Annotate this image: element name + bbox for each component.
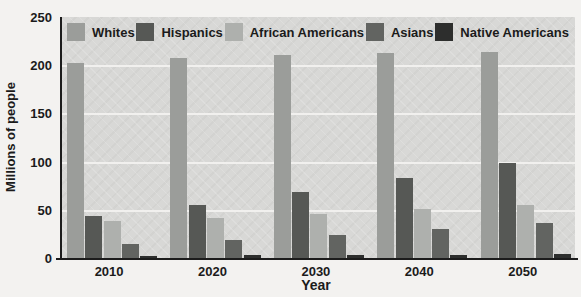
legend-label-hispanics: Hispanics xyxy=(161,25,222,40)
bar-asians-2030 xyxy=(329,235,346,258)
bar-hispanics-2040 xyxy=(396,178,413,258)
bar-african-americans-2030 xyxy=(310,214,327,258)
bar-african-americans-2020 xyxy=(207,218,224,258)
bar-whites-2020 xyxy=(170,58,187,258)
gridline-200 xyxy=(62,65,575,67)
legend-label-asians: Asians xyxy=(391,25,434,40)
legend-swatch-hispanics xyxy=(136,23,154,41)
bar-asians-2040 xyxy=(432,229,449,258)
bar-african-americans-2010 xyxy=(104,221,121,258)
legend-swatch-native-americans xyxy=(435,23,453,41)
y-axis-title: Millions of people xyxy=(3,82,18,192)
legend-item-hispanics: Hispanics xyxy=(136,23,222,41)
y-tick-250: 250 xyxy=(0,10,52,25)
x-axis-line xyxy=(56,258,578,260)
gridline-150 xyxy=(62,113,575,115)
legend-label-whites: Whites xyxy=(92,25,135,40)
bar-hispanics-2050 xyxy=(499,163,516,258)
x-axis-title: Year xyxy=(301,277,331,293)
legend-swatch-asians xyxy=(366,23,384,41)
x-tick-2010: 2010 xyxy=(95,264,124,279)
legend-item-native-americans: Native Americans xyxy=(435,23,569,41)
x-tick-2050: 2050 xyxy=(508,264,537,279)
x-tick-2020: 2020 xyxy=(198,264,227,279)
legend-item-african-americans: African Americans xyxy=(225,23,364,41)
population-bar-chart: 050100150200250 Millions of people White… xyxy=(0,0,581,297)
x-tick-2040: 2040 xyxy=(405,264,434,279)
y-tick-50: 50 xyxy=(0,202,52,217)
legend-item-asians: Asians xyxy=(366,23,434,41)
legend: WhitesHispanicsAfrican AmericansAsiansNa… xyxy=(67,23,569,41)
bar-whites-2050 xyxy=(481,52,498,258)
legend-label-african-americans: African Americans xyxy=(250,25,364,40)
bar-hispanics-2030 xyxy=(292,192,309,258)
bar-hispanics-2020 xyxy=(189,205,206,258)
bar-african-americans-2040 xyxy=(414,209,431,258)
plot-area: WhitesHispanicsAfrican AmericansAsiansNa… xyxy=(60,17,575,258)
legend-swatch-whites xyxy=(67,23,85,41)
bar-whites-2010 xyxy=(67,63,84,258)
bar-african-americans-2050 xyxy=(517,205,534,258)
bar-whites-2030 xyxy=(274,55,291,258)
bar-asians-2020 xyxy=(225,240,242,258)
bar-asians-2050 xyxy=(536,223,553,258)
legend-label-native-americans: Native Americans xyxy=(460,25,569,40)
y-tick-0: 0 xyxy=(0,251,52,266)
legend-swatch-african-americans xyxy=(225,23,243,41)
bar-hispanics-2010 xyxy=(85,216,102,258)
bar-whites-2040 xyxy=(377,53,394,258)
y-tick-200: 200 xyxy=(0,58,52,73)
bar-asians-2010 xyxy=(122,244,139,258)
legend-item-whites: Whites xyxy=(67,23,135,41)
